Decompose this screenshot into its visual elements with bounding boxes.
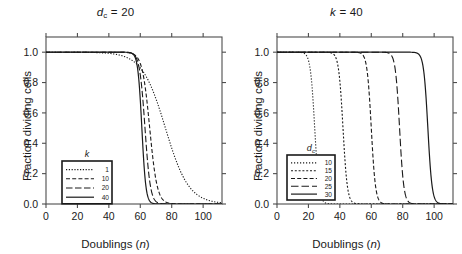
legend-title: k (85, 149, 90, 159)
plot-area-left: 0204060801000.00.20.40.60.81.0k1102040 (0, 0, 231, 254)
y-tick-label: 0.6 (254, 107, 269, 119)
y-tick-label: 0.8 (23, 76, 38, 88)
y-tick-label: 0.0 (254, 198, 269, 210)
x-tick-label: 0 (43, 210, 49, 222)
x-tick-label: 20 (72, 210, 84, 222)
x-tick-label: 100 (194, 210, 212, 222)
legend-item-label: 15 (325, 167, 333, 174)
x-tick-label: 20 (303, 210, 315, 222)
y-tick-label: 0.4 (23, 137, 38, 149)
legend-item-label: 25 (325, 183, 333, 190)
y-tick-label: 0.2 (254, 167, 269, 179)
y-tick-label: 0.2 (23, 167, 38, 179)
legend-item-label: 10 (325, 159, 333, 166)
legend-item-label: 20 (325, 175, 333, 182)
legend-item-label: 20 (102, 184, 110, 191)
x-tick-label: 40 (334, 210, 346, 222)
y-tick-label: 0.4 (254, 137, 269, 149)
y-tick-label: 0.0 (23, 198, 38, 210)
x-tick-label: 60 (365, 210, 377, 222)
y-tick-label: 1.0 (23, 46, 38, 58)
chart-panel-right: k = 40 Fraction dividing cells Doublings… (231, 0, 462, 254)
figure-container: dc = 20 Fraction dividing cells Doubling… (0, 0, 462, 254)
legend-item-label: 30 (325, 191, 333, 198)
legend: dc1015202530 (287, 143, 335, 200)
legend: k1102040 (62, 149, 112, 204)
legend-item-label: 40 (102, 194, 110, 201)
legend-title: dc (307, 143, 316, 154)
x-tick-label: 0 (274, 210, 280, 222)
y-tick-label: 1.0 (254, 46, 269, 58)
plot-area-right: 0204060801000.00.20.40.60.81.0dc10152025… (231, 0, 462, 254)
y-tick-label: 0.6 (23, 107, 38, 119)
x-tick-label: 100 (425, 210, 443, 222)
legend-item-label: 1 (105, 166, 109, 173)
legend-item-label: 10 (102, 175, 110, 182)
chart-panel-left: dc = 20 Fraction dividing cells Doubling… (0, 0, 231, 254)
x-tick-label: 40 (103, 210, 115, 222)
x-tick-label: 80 (397, 210, 409, 222)
x-tick-label: 80 (166, 210, 178, 222)
x-tick-label: 60 (134, 210, 146, 222)
y-tick-label: 0.8 (254, 76, 269, 88)
